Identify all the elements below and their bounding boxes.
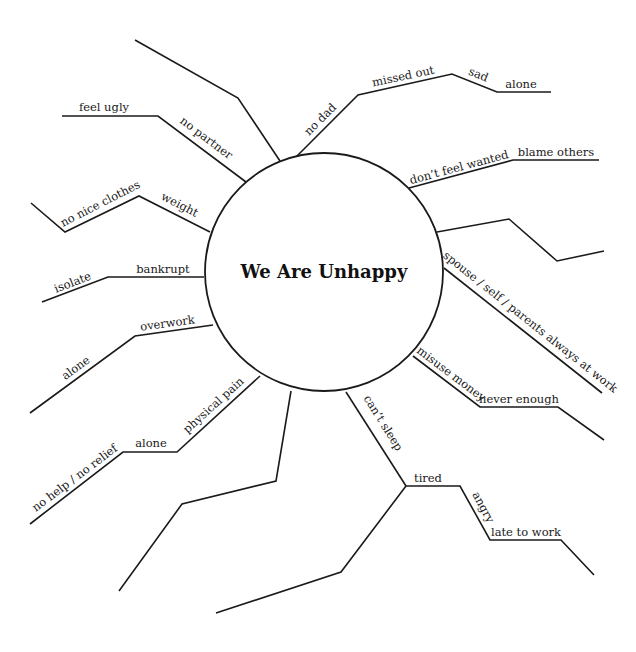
label-angry: angry — [469, 489, 497, 526]
label-feel-ugly: feel ugly — [79, 100, 130, 114]
label-no-nice-clothes: no nice clothes — [58, 177, 143, 229]
label-late-to-work: late to work — [491, 525, 562, 539]
label-alone-overwork: alone — [59, 353, 93, 383]
label-alone-top: alone — [505, 77, 537, 91]
label-misuse-money: misuse money — [414, 343, 489, 404]
label-isolate: isolate — [52, 269, 93, 296]
branch-overwork — [30, 325, 213, 413]
label-bankrupt: bankrupt — [136, 262, 190, 276]
label-weight: weight — [159, 189, 201, 220]
label-tired: tired — [414, 471, 443, 485]
branch-cant-sleep-lower — [216, 486, 406, 613]
label-never-enough: never enough — [479, 392, 560, 406]
label-dont-feel-wanted: don’t feel wanted — [408, 147, 510, 187]
center-title: We Are Unhappy — [240, 261, 408, 282]
label-blame-others: blame others — [518, 145, 595, 159]
branch-always-at-work — [444, 268, 602, 393]
label-always-at-work: spouse / self / parents always at work — [440, 248, 621, 396]
label-alone-pain: alone — [135, 436, 167, 450]
mind-map-canvas: We Are Unhappy no partner feel ugly no d… — [0, 0, 636, 652]
label-physical-pain: physical pain — [180, 374, 247, 436]
label-cant-sleep: can’t sleep — [361, 392, 406, 453]
branch-blank-right — [437, 219, 604, 261]
label-no-help: no help / no relief — [29, 441, 120, 515]
